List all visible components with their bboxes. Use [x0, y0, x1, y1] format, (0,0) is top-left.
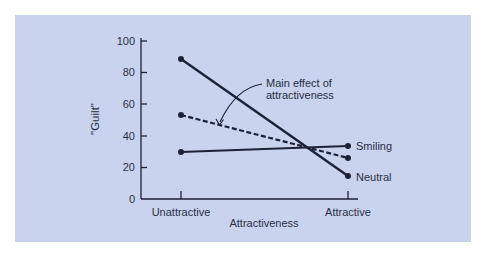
label-neutral: Neutral	[356, 171, 391, 183]
x-axis-label: Attractiveness	[229, 217, 299, 229]
annotation-main-effect: Main effect of attractiveness	[216, 77, 334, 125]
y-tick-100: 100	[117, 35, 135, 47]
y-tick-60: 60	[123, 98, 135, 110]
annotation-line-1: Main effect of	[266, 77, 333, 89]
annotation-line-2: attractiveness	[266, 89, 334, 101]
y-tick-0: 0	[129, 193, 135, 205]
interaction-line-chart: 100 80 60 40 20 0 "Guilt" Unattractive A…	[0, 0, 487, 259]
series-smiling	[178, 143, 351, 155]
y-tick-80: 80	[123, 66, 135, 78]
series-main-effect-dashed	[178, 112, 351, 161]
series-neutral	[178, 56, 351, 179]
y-axis-label: "Guilt"	[89, 103, 101, 135]
x-axis	[141, 191, 358, 199]
x-tick-attractive: Attractive	[325, 206, 371, 218]
x-tick-unattractive: Unattractive	[152, 206, 211, 218]
label-smiling: Smiling	[356, 140, 392, 152]
y-tick-40: 40	[123, 130, 135, 142]
y-tick-20: 20	[123, 161, 135, 173]
y-axis	[141, 38, 147, 199]
